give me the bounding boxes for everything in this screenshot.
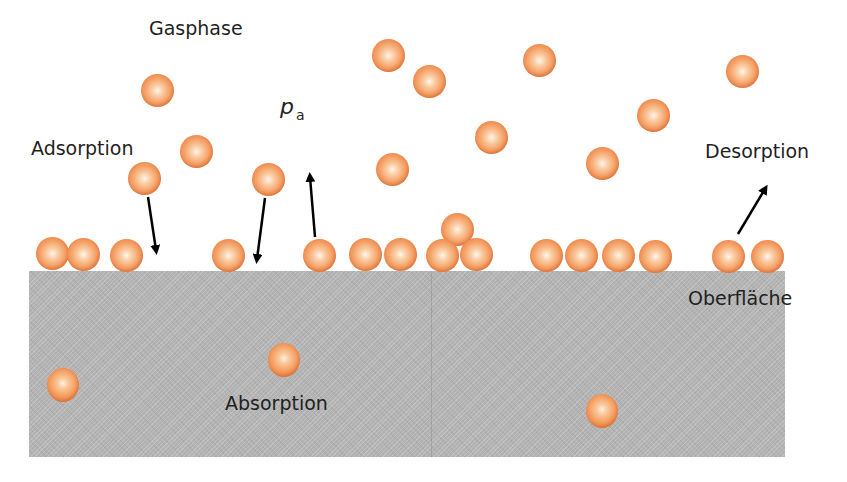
partial-pressure-label: pa [280, 96, 305, 118]
adsorption-diagram: Gasphase pa Adsorption Desorption Oberfl… [0, 0, 847, 482]
adsorption-arrow [148, 197, 156, 250]
adsorption-arrow [257, 198, 265, 259]
desorption-label: Desorption [705, 142, 809, 161]
process-arrows [0, 0, 847, 482]
desorption-arrow [738, 189, 765, 234]
partial-pressure-subscript: a [296, 107, 305, 123]
desorption-arrow [310, 177, 315, 237]
adsorption-label: Adsorption [31, 139, 134, 158]
surface-label: Oberfläche [688, 289, 792, 308]
gas-phase-label: Gasphase [149, 19, 243, 38]
partial-pressure-symbol: p [280, 94, 294, 119]
absorption-label: Absorption [225, 394, 328, 413]
